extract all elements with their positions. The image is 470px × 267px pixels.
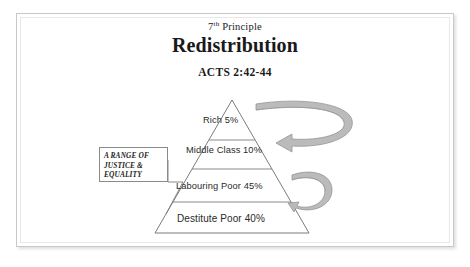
- pyramid-tier-label-rich: Rich 5%: [203, 115, 238, 125]
- pyramid-tier-label-destitute-poor: Destitute Poor 40%: [177, 213, 265, 224]
- principle-word: Principle: [222, 21, 262, 32]
- pyramid-tier-label-middle-class: Middle Class 10%: [186, 145, 262, 155]
- annotation-line-1: A RANGE OF: [104, 151, 167, 161]
- pyramid-tier-label-labouring-poor: Labouring Poor 45%: [176, 181, 263, 191]
- annotation-line-2: JUSTICE &: [104, 161, 167, 171]
- annotation-line-3: EQUALITY: [104, 170, 167, 180]
- slide-heading: 7th Principle Redistribution: [0, 20, 470, 57]
- scripture-reference: ACTS 2:42-44: [0, 66, 470, 78]
- presentation-slide: 7th Principle Redistribution ACTS 2:42-4…: [0, 0, 470, 267]
- principle-ordinal-suffix: th: [214, 20, 220, 28]
- annotation-text-box: A RANGE OF JUSTICE & EQUALITY: [99, 147, 168, 182]
- principle-number-label: 7th Principle: [0, 20, 470, 33]
- page-title: Redistribution: [0, 34, 470, 57]
